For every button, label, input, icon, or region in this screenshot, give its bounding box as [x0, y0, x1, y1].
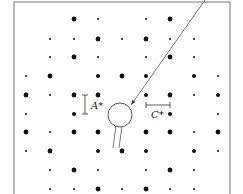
diffraction-spot [121, 188, 123, 190]
diffraction-spot [217, 75, 219, 77]
diffraction-spot [168, 130, 173, 135]
diffraction-spot [145, 169, 147, 171]
diffraction-spot [216, 130, 221, 135]
diffraction-spot [49, 94, 51, 96]
diffraction-spot [145, 18, 147, 20]
diffraction-spot [168, 112, 172, 116]
diffraction-spot [168, 55, 173, 60]
diffraction-spot [49, 188, 51, 190]
diffraction-spot [192, 74, 196, 78]
diffraction-spot [168, 168, 173, 173]
beam-stop-circle [108, 103, 132, 127]
diffraction-spot [72, 130, 77, 135]
diffraction-spot [49, 169, 51, 171]
diffraction-spot [144, 130, 149, 135]
a-star-label: A* [90, 100, 103, 111]
diffraction-spot [193, 131, 195, 133]
diffraction-spot [193, 94, 195, 96]
diffraction-spot [72, 112, 76, 116]
diffraction-pattern-figure: A* C* [0, 0, 243, 194]
diffraction-spot [24, 93, 29, 98]
diffraction-spot [193, 56, 195, 58]
diffraction-spot [144, 187, 149, 192]
diffraction-spot [73, 188, 75, 190]
diffraction-spot [216, 93, 220, 97]
a-star-marker: A* [82, 95, 103, 114]
diffraction-pattern-svg: A* C* [0, 0, 243, 194]
beam-stop-stem-right [119, 126, 122, 148]
diffraction-spot [96, 37, 101, 42]
c-star-label: C* [151, 109, 164, 120]
pointer-line [131, 0, 205, 105]
figure-frame [14, 2, 230, 194]
diffraction-spot [96, 187, 101, 192]
diffraction-spot [72, 55, 77, 60]
diffraction-spot [144, 37, 149, 42]
diffraction-spot [48, 149, 53, 154]
diffraction-spot [49, 56, 51, 58]
diffraction-spot [169, 38, 171, 40]
diffraction-spot [97, 18, 99, 20]
diffraction-spot [192, 149, 196, 153]
diffraction-spot [96, 130, 101, 135]
diffraction-spot [72, 17, 77, 22]
diffraction-spot [217, 113, 219, 115]
diffraction-spot [97, 169, 99, 171]
diffraction-spot [193, 169, 195, 171]
beam-stop [108, 103, 132, 148]
diffraction-spot [193, 38, 195, 40]
c-star-marker: C* [146, 102, 170, 120]
diffraction-spot [72, 168, 77, 173]
diffraction-spot [25, 113, 27, 115]
diffraction-spot [49, 131, 51, 133]
diffraction-spot [48, 74, 53, 79]
diffraction-spot [96, 74, 100, 78]
diffraction-spot [120, 149, 125, 154]
diffraction-spot [25, 150, 27, 152]
diffraction-spot [144, 149, 148, 153]
pointer-arrowhead [131, 100, 135, 105]
diffraction-spot [96, 93, 101, 98]
diffraction-spot [193, 188, 195, 190]
diffraction-spot [121, 38, 123, 40]
diffraction-spot [120, 74, 125, 79]
diffraction-spot [217, 150, 219, 152]
diffraction-spot [72, 93, 77, 98]
diffraction-spot [168, 93, 173, 98]
diffraction-spot [97, 56, 99, 58]
diffraction-spot [25, 75, 27, 77]
diffraction-spot [24, 130, 29, 135]
diffraction-spot [145, 56, 147, 58]
diffraction-spot [49, 38, 51, 40]
diffraction-spot [144, 93, 148, 97]
diffraction-spot [169, 188, 171, 190]
diffraction-spot [168, 17, 173, 22]
diffraction-spot [73, 38, 75, 40]
diffraction-spot [96, 149, 100, 153]
beam-stop-stem-left [113, 126, 116, 148]
diffraction-spot [144, 74, 148, 78]
